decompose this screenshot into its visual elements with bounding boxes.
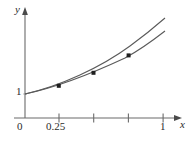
y-axis-arrowhead [22,7,28,15]
curve-upper [25,18,165,94]
curve-lower [25,31,165,94]
x-axis-label: x [180,119,185,130]
x-tick-label-025: 0.25 [46,121,65,132]
origin-label: 0 [17,121,23,132]
y-axis-label: y [15,4,20,15]
plot-area [0,0,195,146]
data-point [127,53,131,57]
data-point [92,71,96,75]
data-point [57,84,61,88]
figure-container: y x 0 1 0.25 1 [0,0,195,146]
x-tick-label-1: 1 [160,121,166,132]
y-tick-label-1: 1 [16,86,22,97]
